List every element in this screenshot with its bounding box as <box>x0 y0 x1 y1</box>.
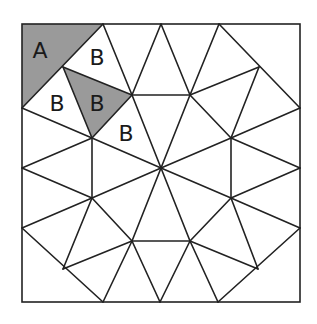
edge-line <box>22 138 92 168</box>
edge-line <box>190 198 231 241</box>
edge-line <box>22 228 103 302</box>
edge-line <box>190 95 231 138</box>
edge-line <box>92 198 132 241</box>
edge-line <box>132 24 161 95</box>
edge-line <box>160 241 190 302</box>
label-B-top: B <box>89 45 104 70</box>
triangle-edges <box>22 24 300 302</box>
triangle-tiling-diagram: A B B B B <box>0 0 317 324</box>
label-B-lower: B <box>118 121 133 146</box>
edge-line <box>218 228 300 302</box>
edge-line <box>132 241 160 302</box>
label-B-left: B <box>49 91 64 116</box>
label-B-shaded: B <box>89 91 104 116</box>
edge-line <box>231 168 300 198</box>
edge-line <box>161 24 190 95</box>
label-A: A <box>32 38 47 63</box>
edge-line <box>231 138 300 168</box>
edge-line <box>22 168 92 198</box>
edge-line <box>219 24 300 108</box>
